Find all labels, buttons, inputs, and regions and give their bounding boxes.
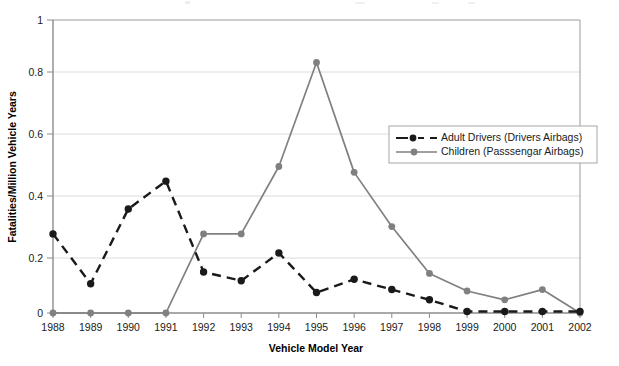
data-point-marker <box>238 277 245 284</box>
data-point-marker <box>501 308 508 315</box>
x-axis-title: Vehicle Model Year <box>269 342 363 354</box>
data-point-marker <box>576 308 583 315</box>
legend-label-children: Children (Passsengar Airbags) <box>441 145 583 157</box>
data-point-marker <box>464 288 471 295</box>
x-tick-label: 1997 <box>380 321 404 333</box>
fatalities-line-chart: 1 0.8 0.6 0.4 0.2 0 Fatalities/Million V… <box>0 0 619 366</box>
clipped-title-remnant <box>185 1 475 4</box>
x-tick-label: 2000 <box>493 321 517 333</box>
y-tick-label: 1 <box>37 14 43 26</box>
data-point-marker <box>313 289 320 296</box>
x-tick-label: 1995 <box>305 321 329 333</box>
y-tick-label: 0.2 <box>28 252 43 264</box>
x-tick-label: 1994 <box>267 321 291 333</box>
data-point-marker <box>125 205 132 212</box>
data-point-marker <box>463 308 470 315</box>
data-point-marker <box>200 268 207 275</box>
y-axis-ticks <box>47 20 53 313</box>
data-point-marker <box>163 310 170 317</box>
data-point-marker <box>238 230 245 237</box>
legend-marker-children <box>411 149 418 156</box>
data-point-marker <box>87 310 94 317</box>
data-point-marker <box>350 276 357 283</box>
data-point-marker <box>501 296 508 303</box>
data-point-marker <box>50 310 57 317</box>
x-tick-label: 1989 <box>79 321 103 333</box>
data-point-marker <box>539 286 546 293</box>
y-tick-label: 0.8 <box>28 66 43 78</box>
x-tick-label: 1992 <box>192 321 216 333</box>
x-tick-label: 2001 <box>531 321 555 333</box>
data-point-marker <box>388 223 395 230</box>
data-point-marker <box>388 286 395 293</box>
data-point-marker <box>313 59 320 66</box>
data-point-marker <box>539 308 546 315</box>
data-point-marker <box>426 296 433 303</box>
chart-legend[interactable]: Adult Drivers (Drivers Airbags) Children… <box>389 126 597 163</box>
data-point-marker <box>275 249 282 256</box>
y-tick-label: 0.4 <box>28 190 43 202</box>
x-tick-label: 1990 <box>117 321 141 333</box>
x-axis-tick-labels: 1988198919901991199219931994199519961997… <box>41 321 592 333</box>
data-point-marker <box>162 177 169 184</box>
x-tick-label: 1993 <box>230 321 254 333</box>
y-axis-tick-labels: 1 0.8 0.6 0.4 0.2 0 <box>28 14 43 319</box>
legend-label-adult: Adult Drivers (Drivers Airbags) <box>441 131 582 143</box>
x-tick-label: 1999 <box>455 321 479 333</box>
y-tick-label: 0.6 <box>28 128 43 140</box>
legend-marker-adult <box>410 135 417 142</box>
data-point-marker <box>275 163 282 170</box>
x-tick-label: 1996 <box>342 321 366 333</box>
x-tick-label: 1991 <box>154 321 178 333</box>
data-point-marker <box>351 169 358 176</box>
x-tick-label: 2002 <box>568 321 592 333</box>
x-tick-label: 1998 <box>418 321 442 333</box>
data-point-marker <box>426 270 433 277</box>
data-point-marker <box>125 310 132 317</box>
y-axis-title: Fatalities/Million Vehicle Years <box>6 91 18 243</box>
chart-figure: 1 0.8 0.6 0.4 0.2 0 Fatalities/Million V… <box>0 0 619 366</box>
x-tick-label: 1988 <box>41 321 65 333</box>
data-point-marker <box>49 230 56 237</box>
data-point-marker <box>87 280 94 287</box>
data-point-marker <box>200 230 207 237</box>
y-tick-label: 0 <box>37 307 43 319</box>
